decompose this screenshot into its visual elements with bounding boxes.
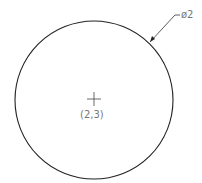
drawing-canvas xyxy=(0,0,202,183)
center-coordinate-label: (2,3) xyxy=(80,110,104,120)
diameter-label: ø2 xyxy=(181,10,193,20)
dimension-leader-line xyxy=(150,15,180,42)
